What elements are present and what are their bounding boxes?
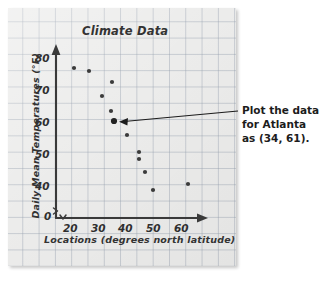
- data-point-atlanta: [111, 118, 117, 124]
- x-tick-label-60: 60: [174, 222, 189, 234]
- data-point: [87, 69, 91, 73]
- data-point: [151, 188, 155, 192]
- x-tick-label-30: 30: [91, 222, 106, 234]
- data-point: [100, 94, 104, 98]
- data-point: [110, 80, 114, 84]
- data-points: [72, 66, 190, 192]
- chart-title: Climate Data: [82, 24, 168, 38]
- callout-line-3: as (34, 61).: [242, 132, 328, 146]
- callout-leader-line: [119, 111, 238, 125]
- y-tick-label-0: 0: [44, 210, 51, 222]
- y-axis: [52, 44, 61, 218]
- data-point: [186, 182, 190, 186]
- data-point: [137, 150, 141, 154]
- screenshot-root: 80 70 60 50 40 0 20 30 40 50 60 Climate …: [0, 0, 330, 284]
- x-axis-title: Locations (degrees north latitude): [44, 234, 235, 245]
- y-axis-title: Daily Mean Temperatures (°F): [30, 59, 41, 219]
- x-tick-label-40: 40: [118, 222, 133, 234]
- callout-line-2: for Atlanta: [242, 118, 328, 132]
- data-point: [137, 157, 141, 161]
- callout-line-1: Plot the data: [242, 104, 328, 118]
- x-tick-label-20: 20: [63, 222, 78, 234]
- data-point: [72, 66, 76, 70]
- data-point: [143, 170, 147, 174]
- x-tick-label-50: 50: [146, 222, 161, 234]
- annotation-callout: Plot the data for Atlanta as (34, 61).: [242, 104, 328, 146]
- data-point: [109, 109, 113, 113]
- data-point: [125, 133, 129, 137]
